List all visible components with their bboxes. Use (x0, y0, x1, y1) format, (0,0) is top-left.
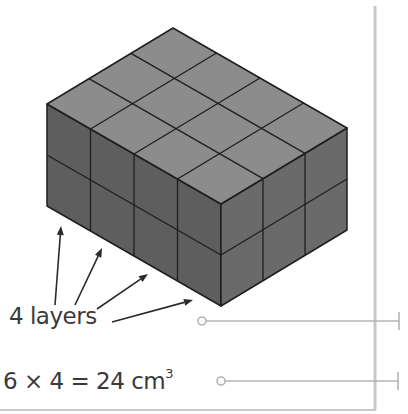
arrow-head-icon (139, 274, 148, 282)
equation-text: 6 × 4 = 24 cm (3, 368, 165, 394)
arrow-shaft (75, 256, 98, 305)
leader-equation-circle-icon (217, 377, 225, 385)
arrow-shaft (55, 235, 60, 305)
arrow-shaft (112, 302, 184, 322)
leader-lines (198, 312, 399, 390)
equation-superscript: 3 (165, 366, 173, 381)
arrow-head-icon (183, 299, 193, 306)
arrow-head-icon (95, 248, 102, 258)
cuboid-diagram (0, 0, 408, 414)
cuboid (47, 28, 347, 306)
volume-equation: 6 × 4 = 24 cm3 (3, 368, 173, 394)
arrow-head-icon (57, 226, 64, 235)
layers-label: 4 layers (9, 303, 97, 329)
arrow-shaft (97, 279, 141, 309)
leader-layers-circle-icon (198, 317, 206, 325)
